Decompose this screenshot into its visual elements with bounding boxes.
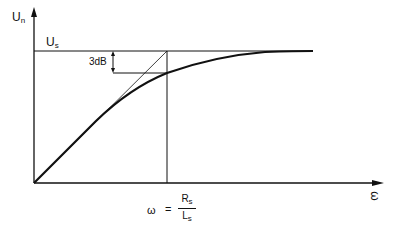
x-axis-arrow-icon <box>372 180 384 186</box>
corner-frequency-fraction: Rs Ls <box>178 194 196 223</box>
fraction-numerator: Rs <box>181 194 192 206</box>
equals-sign: = <box>165 204 171 215</box>
fraction-bar <box>178 208 196 209</box>
3db-arrow-down-icon <box>111 68 115 73</box>
bode-diagram: Un Us 3dB ω ω = Rs Ls <box>0 0 396 228</box>
y-axis-label: Un <box>12 11 25 25</box>
diagram-canvas <box>0 0 396 228</box>
us-label: Us <box>46 36 59 50</box>
3db-arrow-up-icon <box>111 51 115 56</box>
3db-label: 3dB <box>89 57 107 67</box>
y-axis-arrow-icon <box>31 7 37 17</box>
fraction-denominator: Ls <box>182 211 192 223</box>
x-axis-label: ω <box>369 191 381 200</box>
corner-omega-label: ω <box>147 205 156 216</box>
response-curve <box>34 51 313 183</box>
